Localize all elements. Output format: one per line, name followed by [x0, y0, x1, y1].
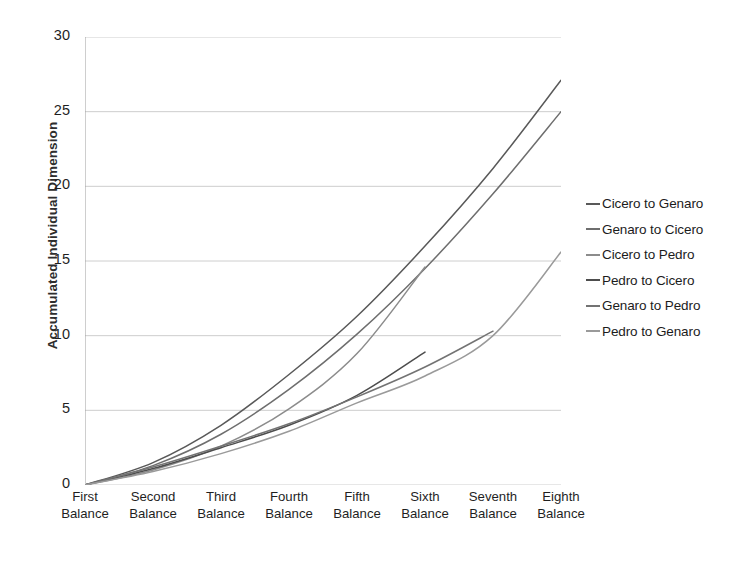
y-tick-label: 5	[10, 401, 70, 416]
legend-item[interactable]: Pedro to Genaro	[586, 319, 754, 345]
x-tick-label-line2: Balance	[461, 506, 525, 523]
x-tick-label: FifthBalance	[325, 489, 389, 522]
legend-line-swatch	[586, 330, 600, 332]
x-tick-label-line1: Fourth	[257, 489, 321, 506]
legend-item-label: Pedro to Cicero	[602, 273, 694, 288]
x-axis-tick-labels: FirstBalanceSecondBalanceThirdBalanceFou…	[85, 489, 561, 549]
x-tick-label-line2: Balance	[529, 506, 593, 523]
legend-line-swatch	[586, 254, 600, 256]
x-tick-label-line1: Third	[189, 489, 253, 506]
y-tick-label: 25	[10, 103, 70, 118]
series-line	[85, 352, 425, 485]
y-axis-tick-labels: 302520151050	[0, 0, 78, 561]
y-tick-label: 15	[10, 252, 70, 267]
x-tick-label-line2: Balance	[53, 506, 117, 523]
x-tick-label-line2: Balance	[257, 506, 321, 523]
legend-line-swatch	[586, 279, 600, 281]
x-tick-label-line1: Second	[121, 489, 185, 506]
x-tick-label: FourthBalance	[257, 489, 321, 522]
y-tick-label: 10	[10, 327, 70, 342]
legend-item-label: Genaro to Cicero	[602, 222, 703, 237]
x-tick-label-line1: First	[53, 489, 117, 506]
x-tick-label-line1: Eighth	[529, 489, 593, 506]
x-tick-label-line1: Seventh	[461, 489, 525, 506]
series-line	[85, 112, 561, 485]
x-tick-label: SecondBalance	[121, 489, 185, 522]
series-line	[85, 80, 561, 485]
legend-item-label: Pedro to Genaro	[602, 324, 700, 339]
x-tick-label-line2: Balance	[189, 506, 253, 523]
legend-item-label: Cicero to Pedro	[602, 247, 694, 262]
y-tick-label: 30	[10, 28, 70, 43]
legend-item-label: Genaro to Pedro	[602, 298, 700, 313]
legend-item[interactable]: Cicero to Genaro	[586, 191, 754, 217]
legend-item[interactable]: Genaro to Pedro	[586, 293, 754, 319]
legend-line-swatch	[586, 228, 600, 230]
legend-item-label: Cicero to Genaro	[602, 196, 703, 211]
legend-line-swatch	[586, 305, 600, 307]
legend-item[interactable]: Pedro to Cicero	[586, 268, 754, 294]
plot-svg	[85, 37, 561, 485]
legend: Cicero to GenaroGenaro to CiceroCicero t…	[586, 191, 754, 344]
x-tick-label: SixthBalance	[393, 489, 457, 522]
x-tick-label: SeventhBalance	[461, 489, 525, 522]
plot-area	[85, 37, 561, 485]
x-tick-label-line1: Fifth	[325, 489, 389, 506]
x-tick-label-line1: Sixth	[393, 489, 457, 506]
x-tick-label: FirstBalance	[53, 489, 117, 522]
legend-line-swatch	[586, 203, 600, 205]
legend-item[interactable]: Genaro to Cicero	[586, 217, 754, 243]
legend-item[interactable]: Cicero to Pedro	[586, 242, 754, 268]
x-tick-label-line2: Balance	[393, 506, 457, 523]
x-tick-label: ThirdBalance	[189, 489, 253, 522]
series-line	[85, 252, 561, 485]
x-tick-label-line2: Balance	[121, 506, 185, 523]
x-tick-label: EighthBalance	[529, 489, 593, 522]
x-tick-label-line2: Balance	[325, 506, 389, 523]
line-chart: Accumulated Individual Dimension 3025201…	[0, 0, 754, 561]
y-tick-label: 20	[10, 177, 70, 192]
